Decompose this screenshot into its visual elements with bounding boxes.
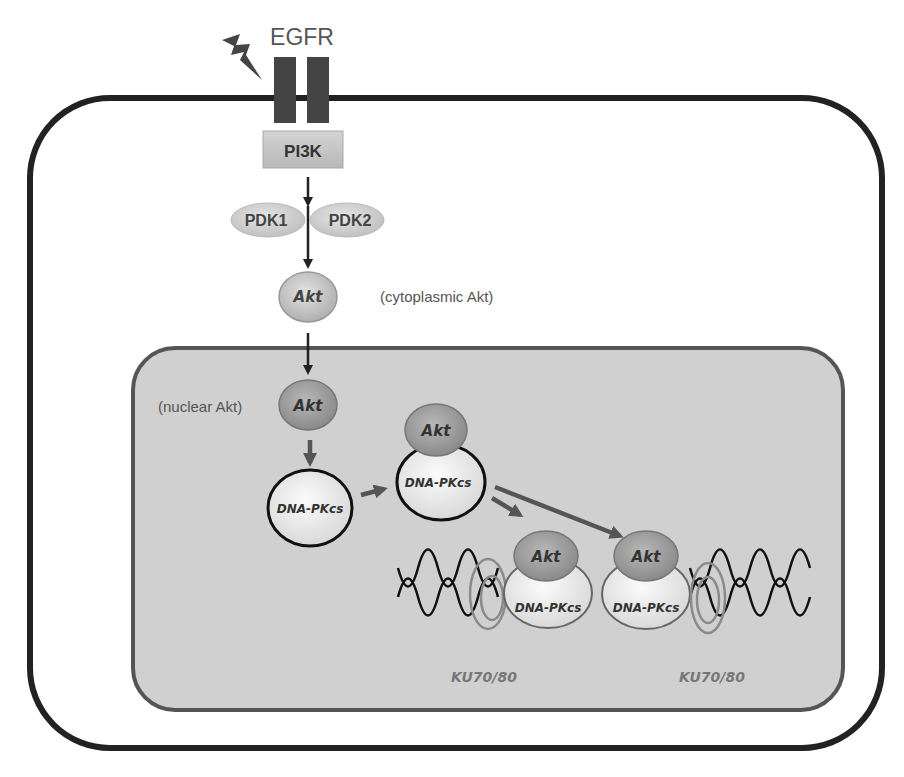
complex-center-akt-label: Akt: [421, 422, 452, 440]
ku70-80-label-right: KU70/80: [679, 669, 745, 685]
pdk2-label: PDK2: [329, 212, 372, 229]
complex-right-akt-label: Akt: [631, 548, 662, 566]
cytoplasmic-akt-label: Akt: [293, 288, 324, 306]
complex-left-akt-label: Akt: [531, 548, 562, 566]
nuclear-akt-annotation: (nuclear Akt): [158, 398, 242, 415]
lightning-bolt-icon: [222, 34, 262, 80]
complex-center-dna-pkcs-label: DNA-PKcs: [405, 476, 472, 490]
pi3k-box: PI3K: [263, 131, 343, 168]
pi3k-label: PI3K: [284, 142, 323, 161]
nuclear-akt-label: Akt: [293, 397, 324, 415]
complex-left-dna-pkcs-label: DNA-PKcs: [515, 601, 582, 615]
egfr-receptor: EGFR: [270, 24, 334, 123]
dna-pkcs-free-label: DNA-PKcs: [277, 502, 344, 516]
cytoplasmic-akt-annotation: (cytoplasmic Akt): [380, 288, 493, 305]
ku70-80-label-left: KU70/80: [451, 669, 517, 685]
egfr-pi3k-akt-dna-pkcs-diagram: EGFR PI3K PDK1 PDK2 Akt (cytoplasmic Akt…: [0, 0, 904, 777]
cytoplasmic-akt: Akt (cytoplasmic Akt): [279, 272, 493, 322]
complex-right-dna-pkcs-label: DNA-PKcs: [613, 601, 680, 615]
egfr-label: EGFR: [270, 24, 334, 50]
pdk1-label: PDK1: [245, 212, 288, 229]
dna-pkcs-free: DNA-PKcs: [268, 470, 352, 546]
